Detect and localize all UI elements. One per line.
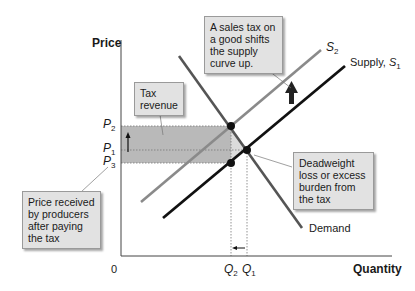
- tax-revenue-area: [121, 126, 231, 163]
- callout-deadweight-loss: Deadweight loss or excess burden from th…: [293, 152, 374, 210]
- y-axis-label: Price: [92, 36, 121, 50]
- curve-label-demand: Demand: [309, 222, 351, 234]
- tax-incidence-diagram: Price Quantity 0 P2 P1 P3 Q2 Q1 S2 Suppl…: [0, 0, 415, 291]
- quantity-down-arrow-icon: [232, 246, 245, 250]
- callout-producer-price: Price received by producers after paying…: [22, 191, 101, 249]
- x-axis-label: Quantity: [353, 262, 402, 276]
- origin-label: 0: [111, 263, 117, 275]
- callout-tax-revenue: Tax revenue: [134, 82, 184, 116]
- price-label-p3: P3: [103, 154, 115, 170]
- callout-sales-tax: A sales tax on a good shifts the supply …: [204, 16, 283, 74]
- point-q1-p1: [243, 146, 251, 154]
- point-q2-p2: [227, 122, 235, 130]
- quantity-label-q1: Q1: [242, 262, 256, 278]
- price-label-p2: P2: [103, 117, 115, 133]
- quantity-label-q2: Q2: [224, 262, 238, 278]
- curve-label-s1: Supply, S1: [350, 56, 401, 71]
- curve-label-s2: S2: [326, 40, 338, 56]
- point-q2-p3: [227, 159, 235, 167]
